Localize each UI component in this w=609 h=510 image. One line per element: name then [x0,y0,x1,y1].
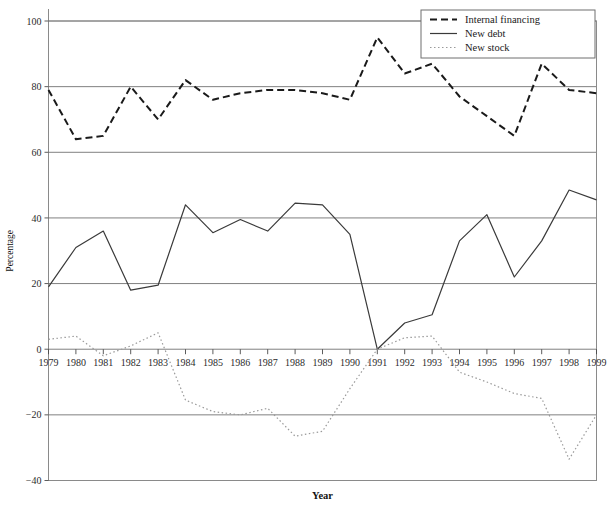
x-tick-label: 1994 [450,357,470,368]
x-tick-label: 1999 [587,357,607,368]
x-tick-label: 1983 [148,357,168,368]
x-tick-label: 1985 [203,357,223,368]
x-axis-tick-marks [49,349,597,354]
x-tick-label: 1980 [66,357,86,368]
x-tick-label: 1979 [39,357,59,368]
plot-area-frame [49,21,597,481]
x-tick-label: 1987 [258,357,278,368]
x-tick-label: 1990 [340,357,360,368]
y-tick-label: 0 [37,344,42,355]
data-series-group [49,37,597,459]
x-tick-label: 1995 [477,357,497,368]
y-tick-label: −20 [26,409,42,420]
x-tick-label: 1981 [93,357,113,368]
legend-label: New debt [465,28,506,39]
x-tick-label: 1984 [176,357,196,368]
x-axis-title: Year [312,490,333,501]
plot-frame [49,9,597,481]
legend-label: New stock [465,42,510,53]
chart-legend: Internal financingNew debtNew stock [421,10,595,58]
series-line-new-debt [49,190,597,349]
y-axis-tick-labels: 100806040200−20−40 [26,16,49,487]
y-tick-label: 40 [32,213,42,224]
financing-trends-line-chart: 100806040200−20−40 197919801981198219831… [0,0,609,510]
x-tick-label: 1989 [313,357,333,368]
x-tick-label: 1986 [230,357,250,368]
y-tick-label: 80 [32,81,42,92]
y-tick-label: −40 [26,475,42,486]
x-tick-label: 1993 [422,357,442,368]
x-tick-label: 1988 [285,357,305,368]
y-tick-label: 60 [32,147,42,158]
legend-label: Internal financing [465,14,541,25]
y-axis-title: Percentage [5,230,15,272]
chart-container: 100806040200−20−40 197919801981198219831… [0,0,609,510]
y-tick-label: 20 [32,278,42,289]
x-tick-label: 1982 [121,357,141,368]
x-tick-label: 1996 [504,357,524,368]
x-tick-label: 1992 [395,357,415,368]
gridlines-group [49,21,597,481]
y-tick-label: 100 [27,16,42,27]
x-tick-label: 1998 [559,357,579,368]
x-axis-tick-labels: 1979198019811982198319841985198619871988… [39,357,607,368]
x-tick-label: 1997 [532,357,552,368]
